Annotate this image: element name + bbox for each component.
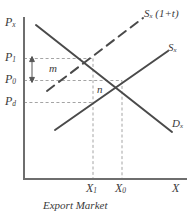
price-tick-p0-sub: 0 xyxy=(12,77,16,86)
supply-with-tax-label: Sx (1+t) xyxy=(144,8,179,20)
axes xyxy=(24,18,186,179)
supply-curve xyxy=(55,51,168,130)
figure-caption: Export Market xyxy=(43,199,107,211)
demand-label: Dx xyxy=(172,118,183,130)
diagram-canvas xyxy=(0,0,195,217)
demand-label-sub: x xyxy=(180,122,183,129)
supply-with-tax-label-suffix: (1+t) xyxy=(153,7,179,19)
y-axis-title: Px xyxy=(5,16,16,29)
supply-label-sub: x xyxy=(174,46,177,53)
demand-label-letter: D xyxy=(172,117,180,129)
price-tick-p1: P1 xyxy=(5,51,16,64)
guide-lines xyxy=(24,59,122,180)
price-tick-p0: P0 xyxy=(5,73,16,86)
quantity-tick-x1-sub: 1 xyxy=(93,186,97,195)
annotation-m: m xyxy=(49,63,57,74)
quantity-tick-x1: X1 xyxy=(86,182,97,195)
supply-label: Sx xyxy=(168,42,177,54)
demand-curve xyxy=(36,25,172,132)
quantity-tick-x0-sub: 0 xyxy=(122,186,126,195)
annotation-n: n xyxy=(97,84,103,95)
y-axis-title-sub: x xyxy=(12,20,15,29)
x-axis-title: X xyxy=(172,182,179,194)
price-tick-p1-sub: 1 xyxy=(12,55,16,64)
tax-wedge-arrow-icon xyxy=(30,57,35,83)
export-market-diagram: Px P1 P0 Pd Sx (1+t) Sx Dx m n X1 X0 X E… xyxy=(0,0,195,217)
price-tick-pd: Pd xyxy=(5,95,16,108)
quantity-tick-x0: X0 xyxy=(115,182,126,195)
price-tick-pd-sub: d xyxy=(12,99,16,108)
